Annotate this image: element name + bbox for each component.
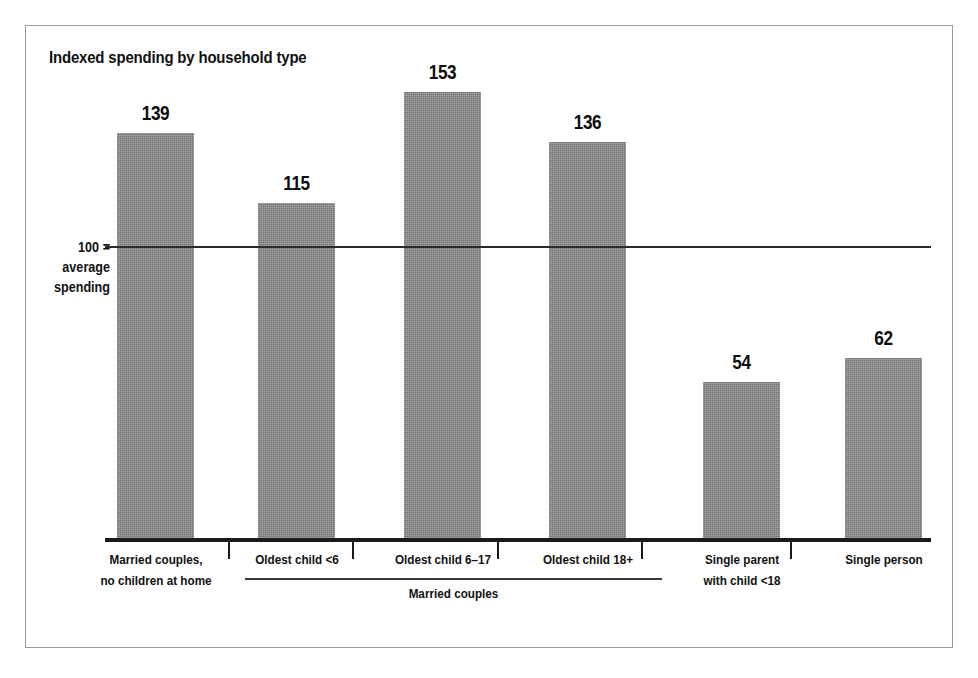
group-bracket-line xyxy=(245,578,662,580)
y-axis-label-line3: spending xyxy=(45,277,110,297)
bar-5 xyxy=(703,382,780,540)
group-bracket-label: Married couples xyxy=(266,586,641,601)
category-label-3: Oldest child 6–17 xyxy=(379,549,507,570)
bar-6 xyxy=(845,358,922,540)
category-label-line1: Single person xyxy=(820,549,948,570)
bar-value-label-4: 136 xyxy=(529,111,647,134)
axis-group-tick-1 xyxy=(228,542,230,559)
y-axis-label-line2: average xyxy=(45,257,110,277)
category-label-line1: Married couples, xyxy=(92,549,220,570)
category-label-4: Oldest child 18+ xyxy=(524,549,652,570)
bar-value-label-5: 54 xyxy=(683,351,801,374)
category-label-5: Single parentwith child <18 xyxy=(678,549,806,591)
category-label-2: Oldest child <6 xyxy=(233,549,361,570)
bar-4 xyxy=(549,142,626,540)
bar-1 xyxy=(117,133,194,540)
category-label-line2: with child <18 xyxy=(678,570,806,591)
bar-3 xyxy=(404,92,481,540)
category-label-line1: Oldest child <6 xyxy=(233,549,361,570)
category-label-line2: no children at home xyxy=(92,570,220,591)
bar-value-label-1: 139 xyxy=(97,102,215,125)
bar-2 xyxy=(258,203,335,540)
category-label-6: Single person xyxy=(820,549,948,570)
category-label-line1: Oldest child 6–17 xyxy=(379,549,507,570)
y-axis-label-line1: 100 = xyxy=(45,237,110,257)
bar-value-label-2: 115 xyxy=(238,172,356,195)
reference-line-100 xyxy=(105,246,931,248)
category-label-line1: Single parent xyxy=(678,549,806,570)
chart-figure: Indexed spending by household type 100 =… xyxy=(0,0,978,678)
reference-line-tick xyxy=(106,246,123,248)
plot-area: 100 = average spending 1391151531365462 … xyxy=(0,0,978,678)
category-label-1: Married couples,no children at home xyxy=(92,549,220,591)
bar-value-label-6: 62 xyxy=(825,327,943,350)
y-axis-label: 100 = average spending xyxy=(45,237,110,297)
bar-value-label-3: 153 xyxy=(384,61,502,84)
category-label-line1: Oldest child 18+ xyxy=(524,549,652,570)
